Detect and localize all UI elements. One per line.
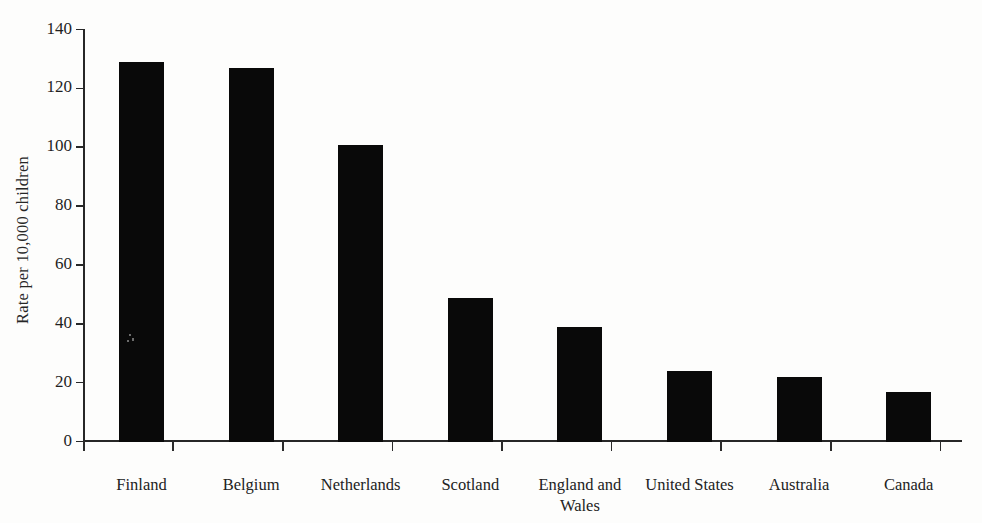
y-axis-line [83, 30, 85, 442]
y-tick-label: 80 [55, 195, 72, 215]
scan-speckle [127, 340, 129, 342]
x-tick-mark [282, 441, 284, 451]
scan-speckle [132, 338, 134, 341]
y-tick-mark [76, 88, 85, 90]
bar [448, 298, 493, 442]
y-tick-label: 120 [47, 77, 73, 97]
x-tick-mark [940, 441, 942, 451]
y-axis-title: Rate per 10,000 children [10, 20, 36, 460]
bar [338, 145, 383, 442]
y-tick-label: 100 [47, 136, 73, 156]
bar [667, 371, 712, 442]
y-tick-mark [76, 382, 85, 384]
y-tick-mark [76, 29, 85, 31]
x-tick-mark [172, 441, 174, 451]
bar [557, 327, 602, 442]
bar-chart-figure: Rate per 10,000 children 020406080100120… [0, 0, 982, 523]
bar [777, 377, 822, 442]
x-tick-mark [720, 441, 722, 451]
x-tick-mark-origin [83, 441, 85, 451]
x-tick-mark [501, 441, 503, 451]
y-tick-label: 20 [55, 372, 72, 392]
y-tick-mark [76, 146, 85, 148]
bar [119, 62, 164, 442]
y-tick-mark [76, 323, 85, 325]
plot-area: 020406080100120140 FinlandBelgiumNetherl… [83, 24, 962, 448]
bar [229, 68, 274, 442]
y-tick-label: 40 [55, 313, 72, 333]
y-tick-label: 140 [47, 19, 73, 39]
x-tick-mark [392, 441, 394, 451]
y-tick-mark [76, 264, 85, 266]
y-tick-label: 0 [64, 431, 73, 451]
y-tick-label: 60 [55, 254, 72, 274]
x-category-label: Canada [834, 474, 982, 495]
scan-speckle [129, 334, 131, 336]
x-tick-mark [830, 441, 832, 451]
bar [886, 392, 931, 442]
y-tick-mark [76, 205, 85, 207]
x-tick-mark [611, 441, 613, 451]
